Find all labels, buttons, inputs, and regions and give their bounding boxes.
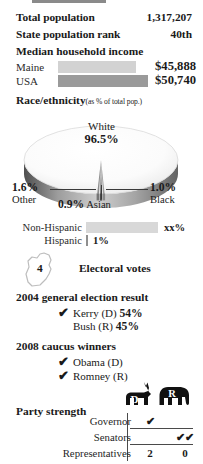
party-row-representatives: Representatives 2 0: [8, 446, 196, 461]
race-ethnicity-heading: Race/ethnicity(as % of total pop.): [16, 94, 142, 106]
pie-callout-asian: 0.9% Asian: [58, 199, 111, 211]
non-hispanic-label: Non-Hispanic: [8, 221, 82, 234]
caucus-2008-row-romney: ✔Romney (R): [58, 369, 128, 383]
winner-check-icon-kerry: ✔: [58, 306, 73, 320]
pie-callout-other-name: Other: [12, 194, 36, 205]
pie-callout-asian-pct: 0.9%: [58, 198, 84, 211]
hispanic-bar: [86, 235, 88, 246]
income-amount-usa: $50,740: [155, 73, 196, 88]
income-row-maine: Maine $45,888: [16, 60, 196, 74]
non-hispanic-bar: [86, 222, 158, 233]
income-amount-maine: $45,888: [155, 59, 196, 74]
hispanic-value: 1%: [93, 234, 109, 247]
party-row-senators: Senators ✔✔: [8, 430, 196, 445]
party-row-label-senators: Senators: [8, 430, 131, 445]
party-row-governor: Governor ✔: [8, 414, 196, 429]
population-rank-label: State population rank: [16, 28, 120, 40]
party-cell-representatives-r: 0: [169, 446, 201, 461]
median-income-heading: Median household income: [16, 45, 143, 57]
hispanic-row-hispanic: Hispanic 1%: [8, 234, 196, 247]
winner-check-icon-romney: ✔: [58, 369, 73, 383]
pie-callout-black-name: Black: [150, 194, 175, 205]
elephant-icon: R: [158, 383, 194, 409]
total-population-value: 1,317,207: [146, 11, 192, 23]
election-2004-name-bush: Bush (R): [73, 320, 113, 332]
stat-row-total-population: Total population 1,317,207: [16, 11, 192, 23]
total-population-label: Total population: [16, 11, 95, 23]
party-cell-governor-r: [169, 414, 201, 429]
pie-callout-black: 1.0% Black: [150, 182, 176, 205]
pie-main-name: White: [88, 120, 115, 132]
electoral-votes-count: 4: [37, 262, 43, 274]
race-ethnicity-subtitle: (as % of total pop.): [86, 97, 142, 106]
party-cell-senators-d: [135, 430, 165, 445]
pie-callout-other-pct: 1.6%: [12, 181, 38, 194]
population-rank-value: 40th: [170, 28, 192, 40]
election-2004-pct-bush: 45%: [116, 320, 139, 333]
party-row-label-representatives: Representatives: [8, 446, 131, 461]
party-cell-representatives-d: 2: [135, 446, 165, 461]
income-bar-usa: [58, 75, 148, 87]
electoral-votes-block: 4 Electoral votes: [16, 252, 196, 286]
top-divider-stub: [32, 0, 106, 3]
leader-line-asian: [101, 185, 102, 199]
income-label-maine: Maine: [16, 60, 44, 74]
election-2004-name-kerry: Kerry (D): [73, 307, 117, 319]
svg-text:R: R: [168, 388, 176, 399]
pie-callout-black-pct: 1.0%: [150, 181, 176, 194]
non-hispanic-value: xx%: [164, 221, 185, 234]
caucus-2008-heading: 2008 caucus winners: [16, 340, 116, 352]
party-cell-governor-d: ✔: [135, 414, 165, 429]
hispanic-label: Hispanic: [8, 234, 82, 247]
caucus-2008-name-obama: Obama (D): [73, 356, 123, 368]
caucus-2008-row-obama: ✔Obama (D): [58, 355, 123, 369]
election-2004-row-kerry: ✔Kerry (D) 54%: [58, 306, 143, 320]
state-fact-box: Total population 1,317,207 State populat…: [0, 0, 203, 464]
caucus-2008-name-romney: Romney (R): [73, 370, 128, 382]
electoral-votes-label: Electoral votes: [79, 262, 151, 274]
stat-row-population-rank: State population rank 40th: [16, 28, 192, 40]
pie-main-label: White 96.5%: [0, 120, 203, 145]
donkey-icon: D: [124, 381, 158, 409]
party-cell-senators-r: ✔✔: [169, 430, 201, 445]
leader-line-other: [50, 189, 96, 190]
hispanic-row-non-hispanic: Non-Hispanic xx%: [8, 221, 196, 234]
leader-line-black: [106, 189, 148, 190]
pie-main-pct: 96.5%: [84, 132, 118, 146]
winner-check-icon-obama: ✔: [58, 355, 73, 369]
pie-callout-asian-name: Asian: [86, 199, 111, 210]
income-bar-maine: [58, 61, 136, 73]
race-ethnicity-title: Race/ethnicity: [16, 94, 86, 106]
income-label-usa: USA: [16, 74, 38, 88]
party-row-label-governor: Governor: [8, 414, 131, 429]
svg-text:D: D: [131, 393, 139, 405]
income-row-usa: USA $50,740: [16, 74, 196, 88]
pie-callout-other: 1.6% Other: [12, 182, 38, 205]
election-2004-heading: 2004 general election result: [16, 291, 148, 303]
election-2004-row-bush: Bush (R) 45%: [58, 319, 139, 333]
